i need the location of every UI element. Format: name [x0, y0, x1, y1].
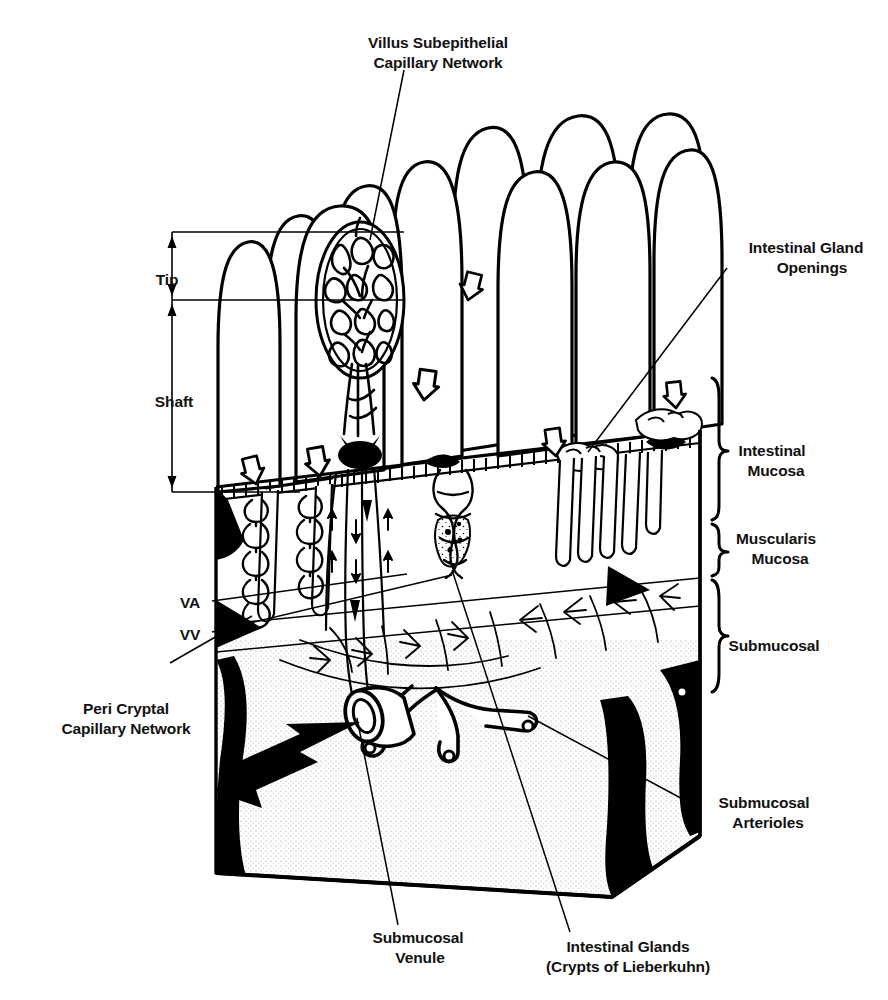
label-peri-cryptal-capillary-network-line2: Capillary Network: [61, 719, 190, 739]
bracket-muscularis-mucosa: [712, 524, 728, 576]
bracket-submucosal: [712, 580, 728, 692]
leader-va: [212, 574, 407, 601]
label-shaft: Shaft: [155, 392, 193, 412]
label-submucosal-arterioles: Submucosal: [718, 793, 809, 813]
label-intestinal-gland-openings: Intestinal Gland: [749, 238, 864, 258]
label-villus-subepithelial-capillary-network: Villus Subepithelial: [368, 33, 508, 53]
label-tip: Tip: [156, 270, 179, 290]
label-muscularis-mucosa-line2: Mucosa: [751, 549, 808, 569]
label-intestinal-mucosa-line2: Mucosa: [747, 461, 804, 481]
label-intestinal-glands-line2: (Crypts of Lieberkuhn): [546, 957, 710, 977]
figure-canvas: Villus Subepithelial Capillary Network I…: [0, 0, 888, 1000]
label-peri-cryptal-capillary-network: Peri Cryptal: [83, 699, 169, 719]
label-villus-subepithelial-capillary-network-line2: Capillary Network: [373, 53, 502, 73]
label-intestinal-mucosa: Intestinal: [738, 441, 805, 461]
label-submucosal: Submucosal: [728, 636, 819, 656]
label-submucosal-arterioles-line2: Arterioles: [732, 813, 803, 833]
label-muscularis-mucosa: Muscularis: [736, 529, 816, 549]
label-intestinal-glands: Intestinal Glands: [566, 937, 689, 957]
central-crypt-dense-plexus: [435, 516, 470, 567]
label-submucosal-venule-line2: Venule: [395, 948, 444, 968]
label-va: VA: [180, 593, 200, 613]
label-vv: VV: [180, 625, 200, 645]
intestinal-villus-diagram: [0, 0, 888, 1000]
label-submucosal-venule: Submucosal: [372, 928, 463, 948]
label-intestinal-gland-openings-line2: Openings: [777, 258, 848, 278]
